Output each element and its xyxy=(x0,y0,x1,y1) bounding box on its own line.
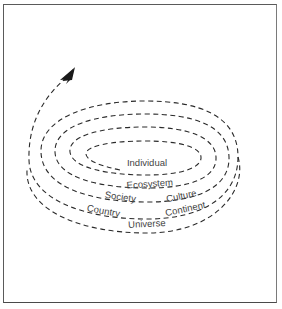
label-country: Country xyxy=(86,202,121,219)
spiral-diagram: Individual Ecosystem Society Culture Cou… xyxy=(0,0,282,309)
label-individual: Individual xyxy=(127,157,167,168)
label-universe: Universe xyxy=(128,217,166,230)
label-ecosystem: Ecosystem xyxy=(126,176,173,190)
label-society: Society xyxy=(104,189,137,204)
